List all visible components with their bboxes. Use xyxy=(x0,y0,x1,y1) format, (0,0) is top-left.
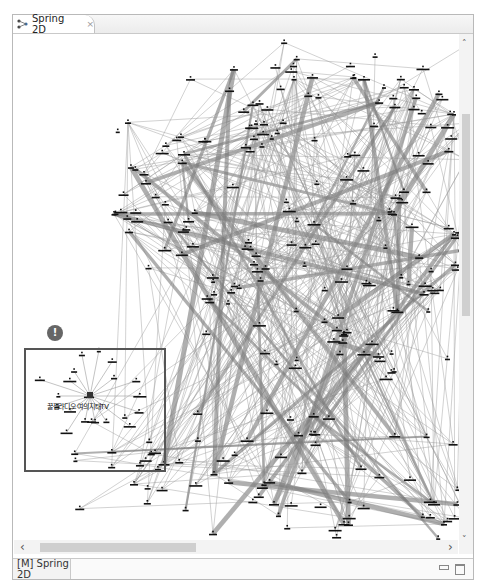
scroll-up-icon[interactable]: ˄ xyxy=(462,38,467,48)
tab-bar: Spring 2D × xyxy=(13,15,473,34)
minimize-icon[interactable] xyxy=(439,565,449,570)
tab-spring-2d[interactable]: Spring 2D × xyxy=(13,15,95,33)
spring-2d-view: Spring 2D × ! 꿀잼라디오 여의지태TV ˄ ˅ ‹ › [M] S… xyxy=(12,14,474,580)
bottom-panel-bar: [M] Spring 2D xyxy=(13,558,473,579)
vertical-scrollbar[interactable]: ˄ ˅ xyxy=(459,34,473,554)
selection-badge: ! xyxy=(47,325,63,341)
scroll-down-icon[interactable]: ˅ xyxy=(462,534,467,544)
maximize-icon[interactable] xyxy=(455,564,465,575)
close-icon[interactable]: × xyxy=(86,19,94,29)
scroll-left-icon[interactable]: ‹ xyxy=(20,540,25,554)
horizontal-scroll-thumb[interactable] xyxy=(40,543,196,552)
network-graph[interactable] xyxy=(14,34,472,554)
horizontal-scrollbar[interactable]: ‹ › xyxy=(14,540,458,554)
graph-canvas[interactable]: ! 꿀잼라디오 여의지태TV xyxy=(14,34,472,554)
scroll-right-icon[interactable]: › xyxy=(448,540,453,554)
vertical-scroll-thumb[interactable] xyxy=(462,114,470,316)
status-tab-spring-2d[interactable]: [M] Spring 2D xyxy=(13,559,71,579)
hub-node-label: 꿀잼라디오 여의지태TV xyxy=(47,401,109,411)
graph-icon xyxy=(17,19,29,29)
tab-label: Spring 2D xyxy=(32,13,81,35)
